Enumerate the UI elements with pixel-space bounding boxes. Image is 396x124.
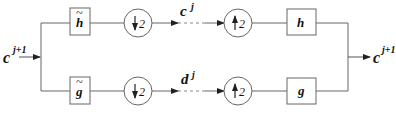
analysis-filter-h-tilde: h ~ (70, 6, 90, 35)
upsample-bottom: 2 (224, 77, 252, 105)
coef-c-superscript: j (189, 1, 194, 12)
output-signal: c j+1 (373, 44, 395, 66)
upsample-factor: 2 (239, 17, 245, 31)
synthesis-filter-h: h (287, 9, 316, 35)
input-signal: c j+1 (3, 44, 40, 66)
channel-top: c j (152, 1, 224, 23)
downsample-factor: 2 (139, 85, 145, 99)
tilde-accent: ~ (76, 6, 83, 20)
synthesis-filter-g: g (287, 78, 316, 104)
coef-d-superscript: j (190, 69, 195, 80)
coef-c-label: c (180, 3, 187, 19)
downsample-factor: 2 (139, 17, 145, 31)
downsample-top: 2 (124, 9, 152, 37)
g-label: g (297, 83, 305, 98)
analysis-filter-g-tilde: g ~ (70, 75, 90, 104)
split-lines (41, 23, 70, 91)
upsample-factor: 2 (239, 85, 245, 99)
upsample-top: 2 (224, 9, 252, 37)
output-superscript: j+1 (380, 44, 395, 55)
coef-d-label: d (181, 71, 189, 87)
output-label: c (373, 49, 380, 66)
filter-bank-diagram: c j+1 h ~ g ~ 2 2 c j (0, 0, 396, 124)
channel-bottom: d j (152, 69, 224, 91)
tilde-accent: ~ (76, 75, 83, 89)
input-superscript: j+1 (11, 44, 26, 55)
h-label: h (297, 15, 304, 30)
input-label: c (3, 49, 10, 66)
merge-lines (316, 23, 348, 91)
downsample-bottom: 2 (124, 77, 152, 105)
